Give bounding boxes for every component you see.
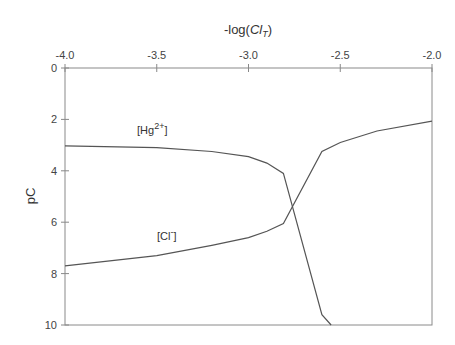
x-tick-label: -4.0 — [56, 49, 75, 61]
y-tick-label: 4 — [51, 165, 57, 177]
y-tick-label: 6 — [51, 216, 57, 228]
x-tick-label: -3.5 — [147, 49, 166, 61]
cl-label: [Cl-] — [157, 227, 177, 242]
x-tick-label: -2.0 — [423, 49, 442, 61]
y-tick-label: 10 — [45, 319, 57, 331]
x-tick-label: -2.5 — [331, 49, 350, 61]
curves — [65, 121, 432, 325]
y-tick-label: 2 — [51, 113, 57, 125]
chart: -log(ClT) -4.0-3.5-3.0-2.5-2.0 0246810 p… — [0, 0, 455, 345]
y-axis-title: pC — [23, 188, 38, 205]
y-tick-label: 8 — [51, 268, 57, 280]
x-axis-ticks: -4.0-3.5-3.0-2.5-2.0 — [56, 49, 442, 72]
x-tick-label: -3.0 — [239, 49, 258, 61]
plot-frame — [65, 68, 432, 325]
x-axis-title: -log(ClT) — [224, 22, 272, 39]
cl-curve — [65, 121, 432, 266]
y-tick-label: 0 — [51, 62, 57, 74]
hg-curve — [65, 146, 331, 325]
hg-label: [Hg2+] — [137, 121, 167, 136]
